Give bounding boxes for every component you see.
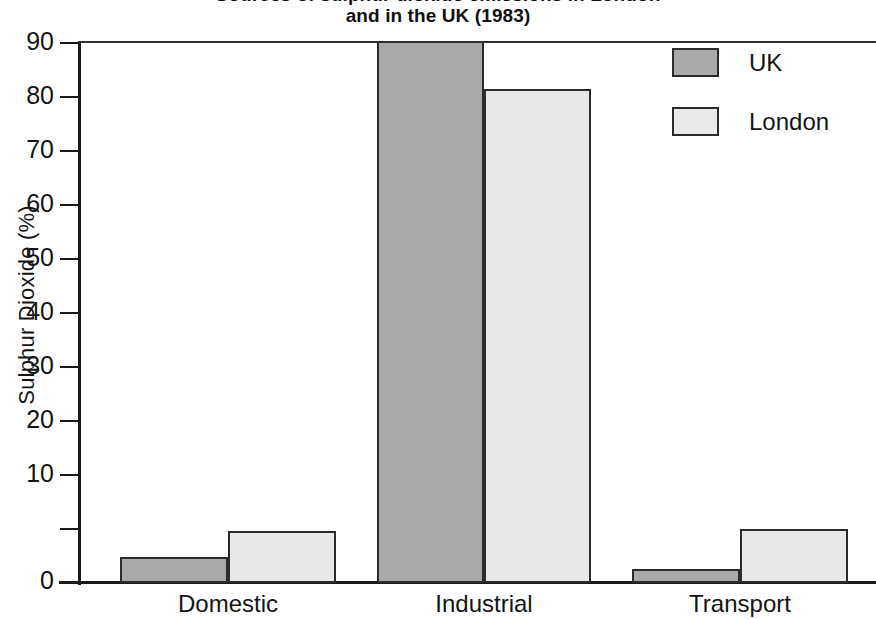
y-tick-label-70: 70 <box>0 137 54 162</box>
bar-domestic-london <box>228 531 336 583</box>
y-tick-label-10: 10 <box>0 461 54 486</box>
y-tick-label-80: 80 <box>0 83 54 108</box>
y-tick-0 <box>60 581 79 583</box>
x-axis-label-transport: Transport <box>632 590 848 617</box>
y-tick-60 <box>60 204 79 206</box>
bar-chart-figure: Sources of sulphur dioxide emissions in … <box>0 0 876 619</box>
y-tick-50 <box>60 258 79 260</box>
y-tick-5-unlabeled <box>60 528 79 530</box>
y-tick-label-50: 50 <box>0 245 54 270</box>
y-tick-label-60: 60 <box>0 191 54 216</box>
legend-item-london: London <box>672 107 829 136</box>
y-tick-20 <box>60 420 79 422</box>
bar-industrial-london <box>484 89 591 583</box>
x-axis-label-domestic: Domestic <box>120 590 336 617</box>
bar-domestic-uk <box>120 557 228 583</box>
bar-transport-london <box>740 529 848 583</box>
legend-item-uk: UK <box>672 48 782 77</box>
y-tick-10 <box>60 474 79 476</box>
x-axis-label-industrial: Industrial <box>377 590 591 617</box>
y-tick-label-0: 0 <box>0 568 54 593</box>
y-tick-30 <box>60 366 79 368</box>
bar-transport-uk <box>632 569 740 583</box>
legend-swatch-uk-icon <box>672 48 719 77</box>
y-tick-40 <box>60 312 79 314</box>
y-tick-90 <box>60 42 79 44</box>
y-tick-label-20: 20 <box>0 407 54 432</box>
legend-swatch-london-icon <box>672 107 719 136</box>
y-tick-label-90: 90 <box>0 29 54 54</box>
legend-label-uk: UK <box>749 50 782 76</box>
chart-title: Sources of sulphur dioxide emissions in … <box>0 0 876 26</box>
bar-industrial-uk <box>377 43 484 583</box>
y-tick-80 <box>60 96 79 98</box>
y-tick-label-30: 30 <box>0 353 54 378</box>
legend-label-london: London <box>749 109 829 135</box>
y-tick-70 <box>60 150 79 152</box>
y-tick-label-40: 40 <box>0 299 54 324</box>
